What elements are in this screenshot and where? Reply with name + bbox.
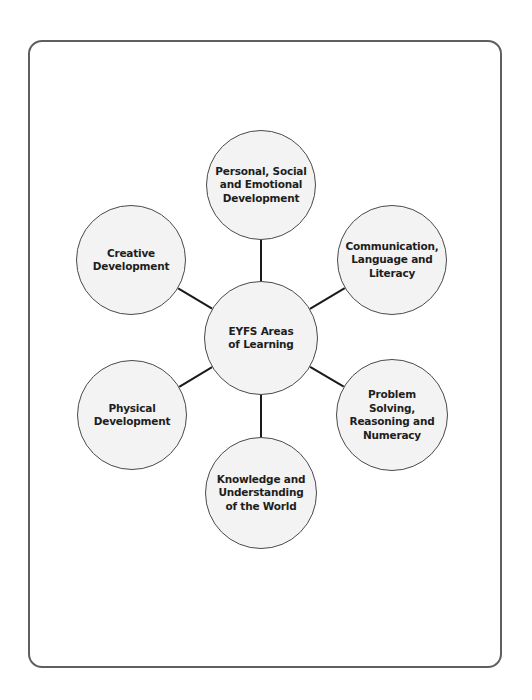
connector-line-physical-development bbox=[179, 367, 212, 387]
node-label: Knowledge and Understanding of the World bbox=[217, 473, 306, 514]
node-label: Problem Solving, Reasoning and Numeracy bbox=[350, 388, 435, 442]
node-knowledge-understanding-world: Knowledge and Understanding of the World bbox=[205, 437, 317, 549]
node-communication-language-literacy: Communication, Language and Literacy bbox=[337, 205, 447, 315]
node-personal-social-emotional: Personal, Social and Emotional Developme… bbox=[206, 130, 316, 240]
center-node-eyfs-areas-of-learning: EYFS Areas of Learning bbox=[204, 281, 318, 395]
node-creative-development: Creative Development bbox=[76, 205, 186, 315]
node-label: Personal, Social and Emotional Developme… bbox=[215, 165, 306, 206]
connector-line-creative-development bbox=[178, 288, 212, 308]
node-label: Creative Development bbox=[93, 247, 170, 274]
node-label: Communication, Language and Literacy bbox=[345, 240, 438, 281]
connector-line-communication-language-literacy bbox=[310, 288, 345, 309]
center-node-label: EYFS Areas of Learning bbox=[228, 325, 293, 352]
node-problem-solving-reasoning-numeracy: Problem Solving, Reasoning and Numeracy bbox=[336, 359, 448, 471]
node-label: Physical Development bbox=[94, 402, 171, 429]
node-physical-development: Physical Development bbox=[77, 360, 187, 470]
connector-line-problem-solving-reasoning-numeracy bbox=[310, 367, 344, 387]
